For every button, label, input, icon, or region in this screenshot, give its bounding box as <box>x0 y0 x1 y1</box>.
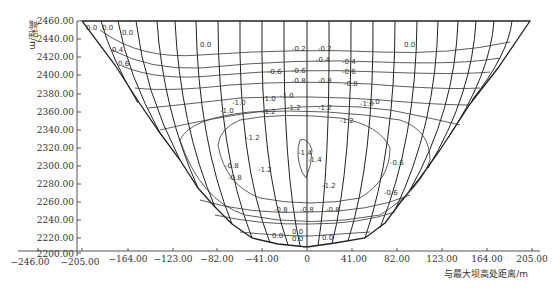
y-tick-label: 2340.00 <box>37 125 74 135</box>
contour-label: -0.8 <box>344 80 358 88</box>
y-ticks <box>77 21 81 253</box>
contour-label: -1.0 <box>262 95 276 103</box>
y-tick-label: 2260.00 <box>37 197 74 207</box>
contour-label: -1.4 <box>308 156 322 164</box>
y-tick-label: 2360.00 <box>37 107 74 117</box>
y-tick-label: 2400.00 <box>37 70 74 80</box>
contour-label: -0.6 <box>292 67 306 75</box>
x-tick-label: 82.00 <box>384 254 410 264</box>
contour-label: 0.0 <box>86 24 97 32</box>
y-tick-label: 2300.00 <box>37 161 74 171</box>
contour-label: -0.8 <box>292 77 306 85</box>
contour-label: -1.0 <box>232 99 246 107</box>
contour-figure: 2460.00 2440.00 2420.00 2400.00 2380.00 … <box>0 0 560 288</box>
y-tick-labels: 2460.00 2440.00 2420.00 2400.00 2380.00 … <box>37 16 74 259</box>
y-tick-label: 2320.00 <box>37 143 74 153</box>
contour-label: -0.8 <box>228 174 242 182</box>
contour-label: -1.2 <box>322 182 336 190</box>
contour-label: 0.0 <box>292 235 303 243</box>
contour-label: -0.8 <box>326 206 340 214</box>
contour-label: -0.6 <box>384 189 398 197</box>
contour-label: 0.0 <box>122 29 133 37</box>
x-tick-label: −246.00 <box>10 257 49 267</box>
x-tick-labels: −246.00 −205.00 −164.00 −123.00 −82.00 −… <box>10 254 548 267</box>
contour-label: -0.8 <box>225 162 239 170</box>
contour-label: -1.2 <box>246 134 260 142</box>
x-tick-label: −164.00 <box>108 254 147 264</box>
contour-label: -0.2 <box>292 45 306 53</box>
contour-label: -1.2 <box>258 166 272 174</box>
y-tick-label: 2220.00 <box>37 233 74 243</box>
contour-label: -1.0 <box>280 92 294 100</box>
contour-label: 0.0 <box>322 234 333 242</box>
contour-label: 0.0 <box>102 24 113 32</box>
x-tick-label: 123.00 <box>426 254 458 264</box>
y-tick-label: 2440.00 <box>37 34 74 44</box>
contour-label: -1.2 <box>318 104 332 112</box>
y-tick-label: 2380.00 <box>37 89 74 99</box>
x-tick-label: −82.00 <box>200 254 234 264</box>
contour-label: -1.0 <box>220 107 234 115</box>
y-tick-label: 2460.00 <box>37 16 74 26</box>
y-tick-label: 2280.00 <box>37 179 74 189</box>
contour-label: 0.0 <box>272 232 283 240</box>
y-tick-label: 2420.00 <box>37 52 74 62</box>
contour-label: -0.6 <box>342 68 356 76</box>
contour-label: -1.2 <box>287 104 301 112</box>
x-tick-label: −205.00 <box>60 257 99 267</box>
x-tick-label: 0 <box>304 254 310 264</box>
contour-label: -0.8 <box>300 206 314 214</box>
contour-label: -1.2 <box>340 117 354 125</box>
contour-label: -0.6 <box>268 68 282 76</box>
contour-label: 0.0 <box>200 41 211 49</box>
contour-label: -0.2 <box>318 45 332 53</box>
contour-label: -0.4 <box>316 56 330 64</box>
x-tick-label: −123.00 <box>153 254 192 264</box>
x-tick-label: 164.00 <box>471 254 503 264</box>
y-tick-label: 2240.00 <box>37 215 74 225</box>
contour-label: -0.6 <box>390 159 404 167</box>
contour-label: 0.4 <box>112 46 124 54</box>
contour-label: -1.2 <box>262 108 276 116</box>
contour-label: -0.8 <box>318 77 332 85</box>
x-tick-label: −41.00 <box>245 254 279 264</box>
x-tick-label: 205.00 <box>516 254 548 264</box>
contour-label: -1.0 <box>360 100 374 108</box>
y-axis-title: 高程/m <box>28 20 39 50</box>
contour-label: -0.4 <box>342 58 356 66</box>
x-axis-title: 与最大坝高处距离/m <box>444 268 528 279</box>
contour-label: -0.8 <box>274 206 288 214</box>
x-tick-label: 41.00 <box>341 254 367 264</box>
contour-label: 0.0 <box>404 41 415 49</box>
contour-label: 0.6 <box>118 60 130 68</box>
